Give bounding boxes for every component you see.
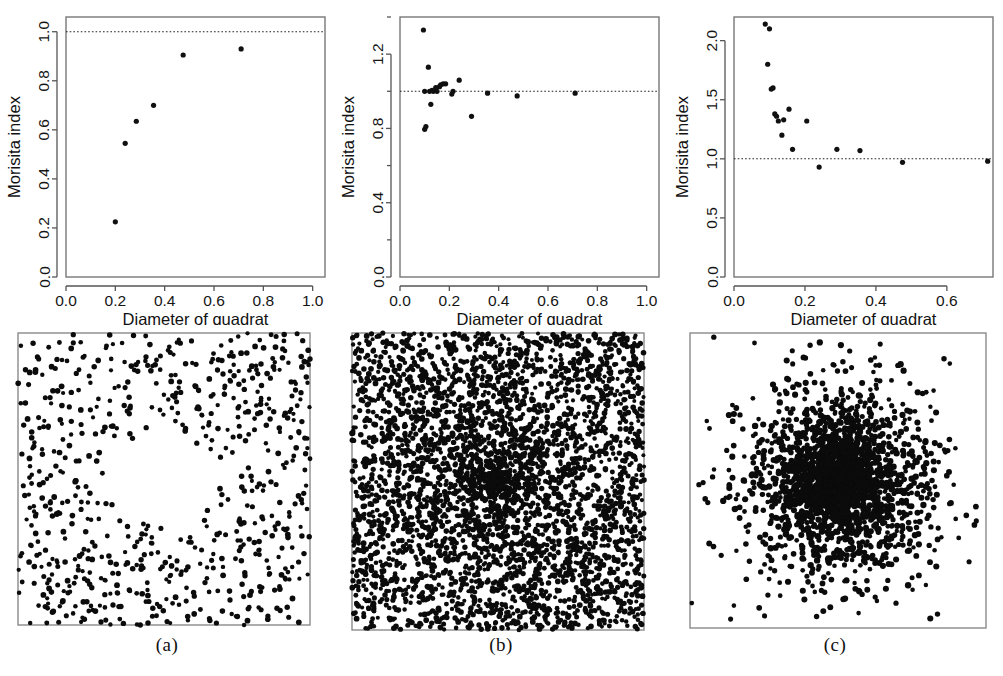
pattern-point [172, 394, 178, 400]
pattern-point [483, 485, 489, 491]
pattern-point [82, 576, 87, 581]
pattern-point [932, 440, 938, 446]
pattern-point [407, 503, 413, 509]
pattern-point [236, 334, 241, 339]
pattern-point [426, 528, 430, 532]
pattern-point [453, 524, 457, 528]
pattern-point [44, 620, 49, 625]
pattern-point [628, 363, 633, 368]
pattern-point [768, 536, 773, 541]
pattern-point [372, 624, 377, 629]
pattern-point [876, 449, 881, 454]
pattern-point [790, 384, 796, 390]
pattern-point [504, 578, 508, 582]
pattern-point [821, 526, 825, 530]
pattern-point [800, 568, 805, 573]
pattern-point [495, 526, 500, 531]
pattern-point [491, 475, 495, 479]
pattern-point [372, 523, 377, 528]
pattern-point [377, 483, 382, 488]
data-point [779, 133, 784, 138]
pattern-point [541, 523, 546, 528]
pattern-point [418, 469, 423, 474]
pattern-point [355, 569, 359, 573]
pattern-point [927, 615, 933, 621]
pattern-point [219, 492, 224, 497]
pattern-point [297, 577, 301, 581]
pattern-point [530, 358, 534, 362]
pattern-point [603, 590, 608, 595]
pattern-point [594, 473, 600, 479]
pattern-point [956, 535, 961, 540]
pattern-point [500, 450, 506, 456]
pattern-point [613, 363, 617, 367]
pattern-point [490, 451, 494, 455]
pattern-point [596, 556, 601, 561]
panel-caption-a: (a) [0, 634, 334, 656]
pattern-point [238, 538, 243, 543]
data-point [434, 89, 439, 94]
pattern-point [803, 380, 809, 386]
pattern-point [608, 390, 613, 395]
pattern-point [254, 403, 259, 408]
pattern-point [457, 532, 462, 537]
pattern-point [935, 611, 940, 616]
pattern-point [924, 390, 929, 395]
pattern-point [831, 531, 836, 536]
pattern-point [363, 569, 367, 573]
pattern-point [475, 409, 479, 413]
pattern-point [539, 452, 545, 458]
pattern-point [149, 535, 154, 540]
pattern-point [256, 548, 261, 553]
pattern-point [80, 569, 84, 573]
pattern-point [374, 335, 379, 340]
pattern-point [500, 347, 505, 352]
pattern-point [532, 478, 536, 482]
pattern-point [557, 475, 562, 480]
pattern-point [236, 369, 240, 373]
pattern-point [491, 553, 496, 558]
pattern-point [727, 494, 732, 499]
pattern-point [585, 593, 590, 598]
pattern-point [641, 511, 646, 516]
pattern-point [905, 582, 911, 588]
pattern-point [419, 446, 423, 450]
pattern-point [73, 493, 78, 498]
pattern-point [794, 417, 799, 422]
pattern-point [96, 397, 101, 402]
pattern-point [607, 379, 612, 384]
pattern-point [906, 520, 912, 526]
pattern-point [783, 389, 788, 394]
pattern-point [367, 379, 372, 384]
y-tick-label: 0.5 [704, 207, 721, 229]
pattern-point [584, 522, 588, 526]
pattern-point [616, 399, 620, 403]
pattern-point [523, 560, 528, 565]
pattern-point [404, 338, 410, 344]
pattern-point [835, 547, 840, 552]
pattern-point [406, 618, 411, 623]
pattern-point [544, 501, 550, 507]
pattern-point [760, 492, 765, 497]
pattern-point [295, 403, 300, 408]
pattern-point [495, 450, 500, 455]
pattern-point [211, 552, 215, 556]
pattern-point [422, 421, 428, 427]
pattern-point [553, 437, 558, 442]
pattern-point [876, 526, 882, 532]
pattern-point [440, 523, 445, 528]
pattern-point [420, 460, 426, 466]
pattern-point [773, 515, 779, 521]
pattern-point [925, 481, 930, 486]
pattern-point [798, 532, 804, 538]
pattern-point [883, 457, 889, 463]
pattern-point [214, 532, 220, 538]
pattern-point [782, 555, 787, 560]
pattern-point [173, 594, 179, 600]
pattern-point [868, 567, 873, 572]
pattern-point [216, 357, 221, 362]
pattern-point [67, 443, 73, 449]
pattern-point [805, 520, 810, 525]
pattern-point [387, 473, 391, 477]
pattern-point [246, 432, 251, 437]
